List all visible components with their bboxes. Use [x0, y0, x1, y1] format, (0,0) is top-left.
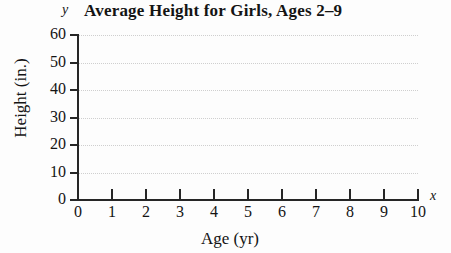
y-axis-tick: [70, 34, 78, 36]
x-axis-tick-label: 2: [133, 203, 159, 221]
gridline: [78, 118, 418, 119]
x-axis-letter-label: x: [430, 188, 436, 204]
x-axis-tick-label: 8: [337, 203, 363, 221]
x-axis-tick-label: 10: [405, 203, 431, 221]
gridline: [78, 173, 418, 174]
y-axis-tick-label: 40: [36, 80, 66, 98]
y-axis-tick: [70, 89, 78, 91]
y-axis-letter-label: y: [62, 2, 68, 18]
y-axis-tick-label: 0: [36, 190, 66, 208]
x-axis-tick-label: 7: [303, 203, 329, 221]
y-axis-tick: [70, 144, 78, 146]
plot-area: [78, 35, 418, 200]
x-axis-tick-label: 3: [167, 203, 193, 221]
x-axis-tick: [383, 189, 385, 200]
gridline: [78, 63, 418, 64]
y-axis-tick-label: 60: [36, 25, 66, 43]
x-axis-tick-label: 9: [371, 203, 397, 221]
x-axis-tick-label: 1: [99, 203, 125, 221]
x-axis-tick: [111, 189, 113, 200]
y-axis-tick-label: 50: [36, 53, 66, 71]
y-axis-tick: [70, 117, 78, 119]
chart-title: Average Height for Girls, Ages 2–9: [84, 1, 414, 21]
y-axis-tick: [70, 199, 78, 201]
x-axis-tick-label: 4: [201, 203, 227, 221]
y-axis-tick-label: 20: [36, 135, 66, 153]
chart-figure: Average Height for Girls, Ages 2–9 y x H…: [0, 0, 451, 253]
x-axis-tick: [247, 189, 249, 200]
x-axis-tick: [315, 189, 317, 200]
y-axis-title: Height (in.): [11, 38, 31, 158]
y-axis-tick: [70, 62, 78, 64]
x-axis-tick-label: 6: [269, 203, 295, 221]
x-axis-tick: [281, 189, 283, 200]
y-axis-tick-label: 10: [36, 163, 66, 181]
x-axis-tick-label: 5: [235, 203, 261, 221]
x-axis-tick-label: 0: [65, 203, 91, 221]
y-axis-tick: [70, 172, 78, 174]
x-axis-tick: [349, 189, 351, 200]
x-axis-tick: [179, 189, 181, 200]
gridline: [78, 145, 418, 146]
x-axis-tick: [213, 189, 215, 200]
y-axis-tick-label: 30: [36, 108, 66, 126]
gridline: [78, 90, 418, 91]
x-axis-tick: [417, 189, 419, 200]
x-axis-title: Age (yr): [150, 229, 310, 249]
x-axis-tick: [145, 189, 147, 200]
gridline: [78, 35, 418, 36]
